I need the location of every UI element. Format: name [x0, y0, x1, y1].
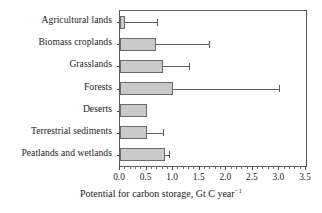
x-axis-tick-label: 3.0: [273, 171, 285, 183]
x-axis-minor-tick: [183, 166, 184, 169]
y-axis-tick: [117, 66, 120, 67]
category-label: Peatlands and wetlands: [21, 148, 112, 158]
y-axis-tick: [117, 89, 120, 90]
y-axis-tick: [117, 111, 120, 112]
x-axis-minor-tick: [162, 166, 163, 169]
x-axis-minor-tick: [241, 166, 242, 169]
error-bar-cap: [189, 63, 190, 70]
x-axis-tick-label: 2.5: [246, 171, 258, 183]
error-bar-line: [156, 44, 209, 45]
x-axis-major-tick: [305, 166, 306, 170]
error-bar-line: [147, 133, 163, 134]
x-axis-tick-label: 0.0: [113, 171, 125, 183]
error-bar-cap: [163, 129, 164, 136]
error-bar-cap: [279, 85, 280, 92]
error-bar-cap: [209, 41, 210, 48]
error-bar-cap: [169, 151, 170, 158]
x-axis-minor-tick: [156, 166, 157, 169]
bar: [120, 38, 156, 51]
x-axis-minor-tick: [130, 166, 131, 169]
bar: [120, 82, 173, 95]
y-axis-tick: [117, 22, 120, 23]
y-axis-tick: [117, 155, 120, 156]
error-bar-line: [125, 22, 157, 23]
x-axis-minor-tick: [204, 166, 205, 169]
x-axis-major-tick: [225, 166, 226, 170]
x-axis-minor-tick: [289, 166, 290, 169]
category-label: Forests: [84, 82, 112, 92]
x-axis-minor-tick: [124, 166, 125, 169]
plot-frame: [119, 10, 307, 167]
category-label: Biomass croplands: [38, 37, 112, 47]
x-axis-tick-label: 1.5: [193, 171, 205, 183]
error-bar-cap: [157, 19, 158, 26]
category-label: Terrestrial sediments: [31, 126, 112, 136]
x-axis-minor-tick: [262, 166, 263, 169]
x-axis-major-tick: [278, 166, 279, 170]
category-axis: Agricultural landsBiomass croplandsGrass…: [0, 10, 116, 165]
x-axis-minor-tick: [268, 166, 269, 169]
x-axis-title-text: Potential for carbon storage, Gt C year: [80, 188, 235, 199]
x-axis-minor-tick: [236, 166, 237, 169]
plot-area: [120, 11, 306, 166]
x-axis-minor-tick: [257, 166, 258, 169]
x-axis-major-tick: [146, 166, 147, 170]
x-axis-title: Potential for carbon storage, Gt C year−…: [0, 187, 322, 200]
x-axis-minor-tick: [247, 166, 248, 169]
x-axis-minor-tick: [231, 166, 232, 169]
x-axis-major-tick: [119, 166, 120, 170]
x-axis-minor-tick: [215, 166, 216, 169]
bar: [120, 60, 163, 73]
x-axis-minor-tick: [273, 166, 274, 169]
error-bar-line: [173, 89, 279, 90]
x-axis-minor-tick: [167, 166, 168, 169]
category-label: Agricultural lands: [42, 15, 112, 25]
y-axis-tick: [117, 133, 120, 134]
x-axis-tick-labels: 0.00.51.01.52.02.53.03.5: [0, 171, 322, 185]
x-axis-minor-tick: [300, 166, 301, 169]
x-axis-major-tick: [252, 166, 253, 170]
bar-chart-figure: Agricultural landsBiomass croplandsGrass…: [0, 0, 322, 213]
error-bar-line: [163, 66, 190, 67]
x-axis-minor-tick: [135, 166, 136, 169]
x-axis-major-tick: [172, 166, 173, 170]
y-axis-tick: [117, 44, 120, 45]
x-axis-minor-tick: [294, 166, 295, 169]
x-axis-tick-label: 3.5: [299, 171, 311, 183]
x-axis-minor-tick: [177, 166, 178, 169]
bar: [120, 126, 147, 139]
category-label: Grasslands: [69, 59, 112, 69]
bar: [120, 104, 147, 117]
x-axis-tick-label: 0.5: [140, 171, 152, 183]
x-axis-minor-tick: [188, 166, 189, 169]
x-axis-minor-tick: [220, 166, 221, 169]
x-axis-tick-label: 1.0: [166, 171, 178, 183]
x-axis-minor-tick: [209, 166, 210, 169]
bar: [120, 148, 165, 161]
x-axis-tick-label: 2.0: [219, 171, 231, 183]
x-axis-major-tick: [199, 166, 200, 170]
x-axis-title-superscript: −1: [235, 187, 242, 195]
x-axis-minor-tick: [284, 166, 285, 169]
x-axis-minor-tick: [151, 166, 152, 169]
x-axis-minor-tick: [140, 166, 141, 169]
category-label: Deserts: [83, 104, 112, 114]
x-axis-minor-tick: [193, 166, 194, 169]
